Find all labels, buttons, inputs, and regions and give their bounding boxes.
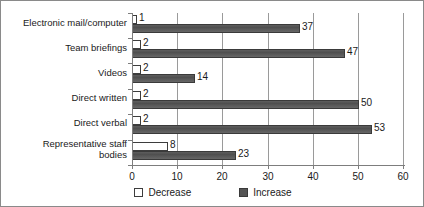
bar-value-increase-5: 23 (238, 148, 249, 159)
y-axis-line (132, 13, 133, 165)
bar-value-increase-3: 50 (361, 97, 372, 108)
legend-label-decrease: Decrease (148, 187, 191, 198)
bar-value-increase-1: 47 (347, 46, 358, 57)
bar-value-decrease-0: 1 (139, 12, 145, 23)
bar-decrease-5[interactable] (132, 142, 168, 151)
x-tick-mark-30 (268, 165, 269, 169)
bar-value-decrease-1: 2 (143, 37, 149, 48)
x-tick-label-50: 50 (343, 171, 373, 183)
x-tick-label-20: 20 (207, 171, 237, 183)
bar-value-increase-0: 37 (302, 21, 313, 32)
bar-increase-3[interactable] (132, 100, 359, 109)
bar-increase-4[interactable] (132, 125, 372, 134)
bar-increase-0[interactable] (132, 24, 300, 33)
x-tick-mark-50 (358, 165, 359, 169)
bar-decrease-2[interactable] (132, 65, 141, 74)
legend-label-increase: Increase (253, 187, 291, 198)
chart-legend: Decrease Increase (1, 187, 424, 198)
x-tick-label-60: 60 (388, 171, 418, 183)
x-tick-mark-20 (222, 165, 223, 169)
category-label-4: Direct verbal (0, 117, 127, 128)
chart-figure: Electronic mail/computer Team briefings … (0, 0, 424, 207)
bar-value-increase-2: 14 (197, 71, 208, 82)
gridline-50 (358, 13, 359, 165)
x-tick-label-30: 30 (253, 171, 283, 183)
bar-decrease-4[interactable] (132, 116, 141, 125)
category-label-5-line2: bodies (0, 149, 127, 160)
category-label-4-line1: Direct verbal (0, 117, 127, 128)
category-label-2-line1: Videos (0, 67, 127, 78)
x-tick-mark-10 (177, 165, 178, 169)
bar-value-decrease-5: 8 (170, 139, 176, 150)
bar-increase-5[interactable] (132, 151, 236, 160)
category-label-3-line1: Direct written (0, 92, 127, 103)
gridline-60 (403, 13, 404, 165)
x-tick-mark-60 (403, 165, 404, 169)
category-label-5-line1: Representative staff (0, 138, 127, 149)
category-label-1-line1: Team briefings (0, 42, 127, 53)
legend-item-increase[interactable]: Increase (239, 187, 291, 198)
bar-increase-1[interactable] (132, 49, 345, 58)
x-tick-label-0: 0 (117, 171, 147, 183)
x-tick-label-40: 40 (298, 171, 328, 183)
x-tick-label-10: 10 (162, 171, 192, 183)
category-label-1: Team briefings (0, 42, 127, 53)
bar-decrease-3[interactable] (132, 91, 141, 100)
gridline-40 (313, 13, 314, 165)
legend-swatch-decrease-icon (134, 188, 143, 197)
bar-value-decrease-3: 2 (143, 88, 149, 99)
bar-value-decrease-2: 2 (143, 62, 149, 73)
bar-decrease-1[interactable] (132, 40, 141, 49)
legend-swatch-increase-icon (239, 188, 248, 197)
category-label-3: Direct written (0, 92, 127, 103)
category-label-5: Representative staff bodies (0, 138, 127, 160)
category-label-0-line1: Electronic mail/computer (0, 17, 127, 28)
bar-value-increase-4: 53 (374, 122, 385, 133)
x-tick-mark-0 (132, 165, 133, 169)
category-label-2: Videos (0, 67, 127, 78)
gridline-30 (268, 13, 269, 165)
bar-increase-2[interactable] (132, 74, 195, 83)
gridline-20 (222, 13, 223, 165)
bar-value-decrease-4: 2 (143, 113, 149, 124)
x-tick-mark-40 (313, 165, 314, 169)
gridline-10 (177, 13, 178, 165)
legend-item-decrease[interactable]: Decrease (134, 187, 191, 198)
category-label-0: Electronic mail/computer (0, 17, 127, 28)
